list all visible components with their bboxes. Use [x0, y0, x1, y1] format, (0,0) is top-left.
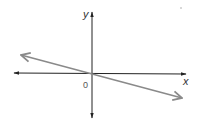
y-axis-label: y — [82, 8, 90, 20]
x-axis — [14, 73, 186, 74]
coordinate-plane: y x 0 — [0, 0, 197, 125]
scan-speck — [180, 7, 182, 9]
graphed-line — [21, 55, 182, 98]
origin-label: 0 — [83, 80, 88, 90]
x-axis-label: x — [182, 75, 189, 87]
